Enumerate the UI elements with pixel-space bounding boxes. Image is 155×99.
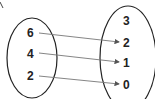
range-value-2: 2 [123,36,130,50]
domain-value-2: 2 [27,69,34,83]
range-value-1: 1 [123,56,130,70]
domain-value-4: 4 [27,47,34,61]
range-value-0: 0 [123,78,130,92]
arrow-4-to-1 [39,53,119,62]
arrow-6-to-2 [39,33,119,42]
corner-mark [0,2,3,8]
mapping-diagram: 6 4 2 3 2 1 0 [0,0,155,99]
range-value-3: 3 [123,14,130,28]
domain-value-6: 6 [27,26,34,40]
